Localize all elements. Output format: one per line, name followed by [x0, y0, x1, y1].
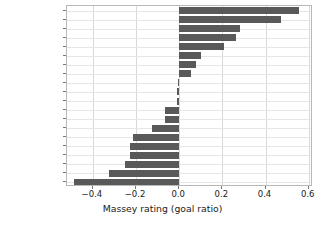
x-gridline: [179, 6, 180, 185]
y-gridline: [67, 83, 311, 84]
x-tick-label: 0.4: [258, 189, 272, 199]
bar-chart-figure: −0.4−0.20.00.20.40.6kawasakifyokohamafmk…: [0, 0, 325, 225]
y-tick-mark: [63, 19, 66, 20]
plot-area: [66, 5, 312, 186]
bar: [179, 43, 223, 50]
y-gridline: [67, 110, 311, 111]
y-tick-mark: [63, 91, 66, 92]
bar: [177, 98, 180, 105]
y-tick-mark: [63, 172, 66, 173]
y-gridline: [67, 146, 311, 147]
bar: [130, 152, 179, 159]
x-axis-label: Massey rating (goal ratio): [0, 203, 325, 214]
bar: [179, 61, 196, 68]
bar: [179, 25, 240, 32]
x-tick-label: 0.6: [301, 189, 315, 199]
y-gridline: [67, 164, 311, 165]
y-gridline: [67, 128, 311, 129]
bar: [179, 7, 298, 14]
x-gridline: [222, 6, 223, 185]
y-tick-mark: [63, 28, 66, 29]
bar: [179, 70, 191, 77]
y-tick-mark: [63, 109, 66, 110]
y-gridline: [67, 155, 311, 156]
x-tick-label: 0.0: [171, 189, 185, 199]
bar: [125, 161, 179, 168]
bar: [130, 143, 179, 150]
y-tick-mark: [63, 55, 66, 56]
bar: [109, 170, 179, 177]
y-tick-mark: [63, 10, 66, 11]
bar: [179, 16, 281, 23]
x-tick-label: 0.2: [215, 189, 229, 199]
y-tick-mark: [63, 181, 66, 182]
y-tick-mark: [63, 154, 66, 155]
y-tick-mark: [63, 37, 66, 38]
bar: [179, 34, 236, 41]
bar: [74, 179, 179, 186]
y-tick-mark: [63, 73, 66, 74]
y-tick-mark: [63, 100, 66, 101]
bar: [152, 125, 179, 132]
y-gridline: [67, 119, 311, 120]
y-tick-mark: [63, 136, 66, 137]
bar: [178, 79, 179, 86]
bar: [165, 116, 180, 123]
x-gridline: [309, 6, 310, 185]
y-tick-mark: [63, 145, 66, 146]
y-gridline: [67, 101, 311, 102]
bar: [133, 134, 179, 141]
y-tick-mark: [63, 46, 66, 47]
x-tick-label: −0.2: [125, 189, 146, 199]
bar: [177, 88, 179, 95]
y-gridline: [67, 137, 311, 138]
x-tick-label: −0.4: [82, 189, 103, 199]
y-gridline: [67, 92, 311, 93]
bar: [179, 52, 201, 59]
y-tick-mark: [63, 64, 66, 65]
y-tick-mark: [63, 163, 66, 164]
x-gridline: [266, 6, 267, 185]
x-gridline: [93, 6, 94, 185]
y-tick-mark: [63, 127, 66, 128]
bar: [165, 107, 179, 114]
y-tick-mark: [63, 118, 66, 119]
y-gridline: [67, 173, 311, 174]
y-tick-mark: [63, 82, 66, 83]
